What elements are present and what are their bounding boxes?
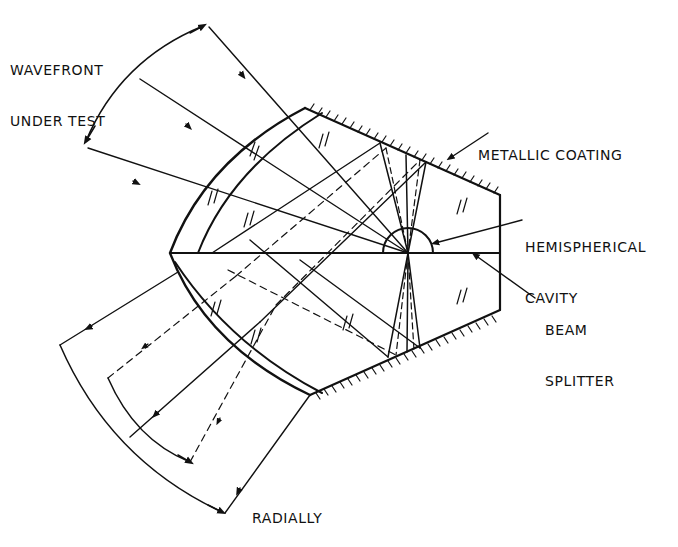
lens-outer-surface xyxy=(170,108,310,395)
label-metallic-coating: METALLIC COATING xyxy=(478,113,623,181)
label-radially-sheared-wavefront: RADIALLY SHEARED WAVEFRONT xyxy=(252,476,345,547)
label-beam-splitter: BEAM SPLITTER xyxy=(545,288,615,407)
prism-bottom-face xyxy=(310,310,500,395)
hemispherical-cavity-leader xyxy=(435,220,522,243)
label-wavefront-under-test: WAVEFRONT UNDER TEST xyxy=(10,28,105,147)
